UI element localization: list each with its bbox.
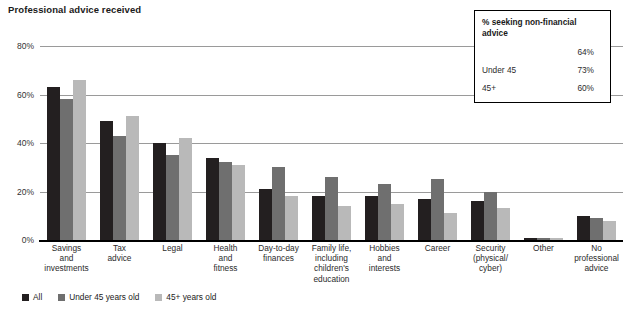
bar [100,121,113,240]
x-axis-label-line: Legal [147,243,198,253]
x-axis-label-line: Hobbies [359,243,410,253]
legend-item[interactable]: 45+ years old [155,292,216,302]
x-axis-label: Healthandfitness [199,243,252,274]
x-axis-label-line: Tax [94,243,145,253]
bar [444,213,457,240]
bar [206,158,219,240]
bar [232,165,245,240]
x-axis-label: Other [517,243,570,253]
x-axis-label-line: Savings [41,243,92,253]
bar [259,189,272,240]
inset-row-value: 64% [548,47,594,57]
x-axis-label-line: Security [465,243,516,253]
x-axis-label-line: Day-to-day [253,243,304,253]
x-axis-label-line: Other [518,243,569,253]
inset-row-label: Under 45 [482,65,548,75]
bar [312,196,325,240]
x-axis-label: Legal [146,243,199,253]
x-axis-label-line: and [359,253,410,263]
x-axis-label-line: finances [253,253,304,263]
bar [325,177,338,240]
x-axis-label-line: including [306,253,357,263]
x-axis-label-line: advice [94,253,145,263]
bar [126,116,139,240]
inset-row-value: 60% [548,83,594,93]
bar [431,179,444,240]
bar-group [411,46,464,240]
x-axis-label-line: and [41,253,92,263]
bar [471,201,484,240]
x-axis-label-line: professional [571,253,622,263]
inset-rows: 64%Under 4573%45+60% [482,47,603,93]
bar [166,155,179,240]
x-axis-label-line: advice [571,263,622,273]
x-axis-label-line: No [571,243,622,253]
bar [285,196,298,240]
x-axis-label-line: investments [41,263,92,273]
legend-item[interactable]: All [22,292,42,302]
bar [60,99,73,240]
bar [484,192,497,241]
chart-legend: AllUnder 45 years old45+ years old [22,292,232,302]
bar [113,136,126,240]
legend-swatch-icon [58,294,65,301]
bar [603,221,616,240]
y-tick-label: 60% [17,90,34,100]
legend-swatch-icon [155,294,162,301]
legend-item[interactable]: Under 45 years old [58,292,139,302]
x-axis-label-line: interests [359,263,410,273]
bar [179,138,192,240]
x-axis-label: Family life,includingchildren'seducation [305,243,358,284]
y-tick-label: 40% [17,138,34,148]
legend-swatch-icon [22,294,29,301]
inset-row: Under 4573% [482,65,603,75]
inset-row-value: 73% [548,65,594,75]
x-axis-label-line: Career [412,243,463,253]
bar [47,87,60,240]
inset-row: 45+60% [482,83,603,93]
bar-group [252,46,305,240]
y-tick-label: 20% [17,187,34,197]
bar [590,218,603,240]
bar-group [358,46,411,240]
bar [153,143,166,240]
x-axis-label-line: children's [306,263,357,273]
inset-row-label: 45+ [482,83,548,93]
x-axis-label-line: and [200,253,251,263]
bar-group [199,46,252,240]
bar [365,196,378,240]
x-axis-line [39,240,623,242]
bar [497,208,510,240]
page-title: Professional advice received [8,4,141,15]
x-axis-label-line: Health [200,243,251,253]
x-axis-label-line: fitness [200,263,251,273]
inset-stat-box: % seeking non-financial advice 64%Under … [474,10,611,103]
x-axis-label: Security(physical/cyber) [464,243,517,274]
x-axis-label: Career [411,243,464,253]
legend-label: Under 45 years old [69,292,139,302]
bar [73,80,86,240]
bar-group [305,46,358,240]
bar [219,162,232,240]
x-axis-label: Taxadvice [93,243,146,263]
x-axis-label: Noprofessionaladvice [570,243,623,274]
inset-title: % seeking non-financial advice [482,17,603,38]
bar [338,206,351,240]
bar [418,199,431,240]
x-axis-labels: SavingsandinvestmentsTaxadviceLegalHealt… [40,243,623,284]
x-axis-label: Hobbiesandinterests [358,243,411,274]
inset-row-label [482,47,548,57]
bar-group [93,46,146,240]
legend-label: All [33,292,42,302]
bar-group [146,46,199,240]
bar [391,204,404,240]
x-axis-label: Day-to-dayfinances [252,243,305,263]
bar-group [40,46,93,240]
x-axis-label-line: cyber) [465,263,516,273]
x-axis-label-line: (physical/ [465,253,516,263]
bar [272,167,285,240]
x-axis-label-line: Family life, [306,243,357,253]
y-tick-label: 80% [17,41,34,51]
y-tick-label: 0% [22,235,34,245]
inset-row: 64% [482,47,603,57]
